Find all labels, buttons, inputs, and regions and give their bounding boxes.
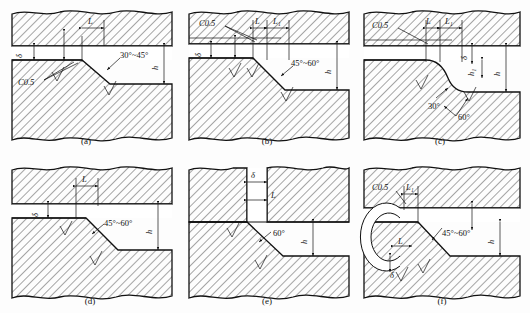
- panel-a: L δ C0.5 30°~45° h (a): [8, 6, 180, 146]
- label-angle-a: 30°~45°: [120, 50, 148, 60]
- label-h1-c: h₁: [466, 69, 476, 76]
- panel-c: L L₁ C0.5 δ h₁ h 30° 60° (c): [360, 6, 528, 146]
- panel-f: L₁ C0.5 L δ 45°~60° h (f): [360, 160, 528, 306]
- label-L1-b: L₁: [272, 16, 281, 26]
- gap-band-b: [189, 44, 349, 58]
- label-L-c: L: [425, 16, 431, 26]
- label-c05-c: C0.5: [372, 20, 388, 30]
- label-h-d: h: [144, 230, 154, 234]
- label-h-b: h: [323, 70, 333, 74]
- figure-sheet: L δ C0.5 30°~45° h (a): [0, 0, 530, 313]
- caption-d: (d): [85, 296, 96, 306]
- label-h-a: h: [150, 66, 160, 70]
- label-L-a: L: [87, 16, 93, 26]
- label-h-c: h: [492, 72, 502, 76]
- panel-e: δ L 60° h (e): [185, 160, 357, 306]
- label-angle-f: 45°~60°: [442, 228, 470, 238]
- caption-f: (f): [438, 296, 447, 306]
- label-angle60-c: 60°: [458, 112, 470, 122]
- label-L-e: L: [270, 190, 276, 200]
- label-L-b: L: [254, 16, 260, 26]
- label-L-d: L: [81, 174, 87, 184]
- upper-body-right-e: [267, 167, 349, 222]
- label-angle-e: 60°: [273, 228, 285, 238]
- lower-body-a: [12, 60, 172, 141]
- label-c05-f: C0.5: [372, 182, 388, 192]
- caption-a: (a): [81, 136, 91, 146]
- label-angle30-c: 30°: [428, 101, 440, 111]
- label-h-e: h: [299, 240, 309, 244]
- label-c05-a: C0.5: [18, 77, 34, 87]
- label-L1-c: L₁: [444, 16, 453, 26]
- label-h-f: h: [486, 240, 496, 244]
- label-angle-b: 45°~60°: [291, 58, 319, 68]
- label-c05-b: C0.5: [199, 18, 215, 28]
- upper-body-d: [12, 167, 172, 204]
- panel-b: L L₁ C0.5 δ 45°~60° h (b): [185, 6, 357, 146]
- caption-b: (b): [262, 136, 273, 146]
- label-L-f: L: [397, 236, 403, 246]
- label-angle-d: 45°~60°: [104, 218, 132, 228]
- label-L1-f: L₁: [405, 182, 414, 192]
- gap-band-c: [364, 46, 520, 60]
- caption-e: (e): [262, 296, 272, 306]
- upper-body-left-e: [189, 168, 247, 222]
- panel-d: L δ 45°~60° h (d): [8, 160, 180, 306]
- slot-e: [247, 168, 267, 222]
- caption-c: (c): [435, 136, 445, 146]
- leader-angle-f: [432, 228, 442, 240]
